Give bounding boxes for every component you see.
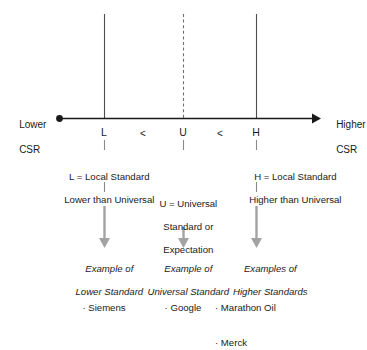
definition-universal-line2: Standard or [163,221,213,232]
axis-label-lower-csr-line1: Lower [19,119,46,130]
scale-marker-l: L [94,127,114,139]
axis-label-higher-csr-line2: CSR [336,144,357,155]
scale-marker-h: H [246,127,266,139]
comparator-sign-1: < [135,128,151,140]
definition-higher-line1: H = Local Standard [254,171,336,182]
list-item: · Merck [215,337,335,349]
list-item: · Marathon Oil [215,302,335,314]
definition-universal-line1: U = Universal [159,198,217,209]
comparator-sign-2: < [212,128,228,140]
axis-right-arrowhead [312,114,321,124]
example-list-higher: · Marathon Oil · Merck [215,279,335,350]
axis-label-lower-csr-line2: CSR [19,144,40,155]
axis-label-higher-csr-line1: Higher [336,119,365,130]
scale-marker-u: U [173,127,193,139]
axis-left-endpoint-dot [56,115,63,122]
definition-higher-standard: H = Local Standard Higher than Universal [213,159,367,217]
definition-lower-line1: L = Local Standard [69,171,149,182]
definition-higher-line2: Higher than Universal [249,194,341,205]
example-title-higher-line1: Examples of [244,263,297,274]
